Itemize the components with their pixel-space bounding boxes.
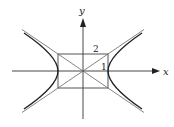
hyperbola-diagram: x y 2 1: [0, 0, 174, 127]
x-axis-label: x: [163, 66, 169, 77]
rectangle-half-height-label: 1: [101, 62, 107, 72]
y-axis-arrow-icon: [80, 18, 86, 27]
x-axis-arrow-icon: [152, 68, 160, 74]
rectangle-half-width-label: 2: [93, 44, 99, 54]
y-axis-label: y: [78, 5, 85, 16]
diagram-canvas: x y 2 1: [0, 0, 174, 127]
